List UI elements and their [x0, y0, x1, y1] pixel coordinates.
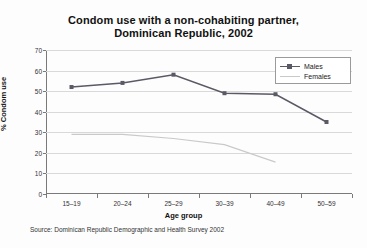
y-tick-label: 30: [35, 129, 42, 136]
legend-item-males: Males: [280, 61, 346, 71]
chart-title: Condom use with a non-cohabiting partner…: [0, 14, 367, 40]
y-axis-label: % Condom use: [0, 77, 8, 131]
x-tick-label: 20–24: [113, 200, 131, 207]
chart-title-line-2: Dominican Republic, 2002: [0, 27, 367, 40]
source-note: Source: Dominican Republic Demographic a…: [30, 226, 224, 233]
chart-page: Condom use with a non-cohabiting partner…: [0, 0, 367, 248]
legend-item-females: Females: [280, 71, 346, 81]
legend-label-males: Males: [304, 62, 323, 71]
x-tick-mark: [250, 194, 251, 198]
legend-swatch-males-icon: [280, 62, 300, 70]
series-line-females: [72, 134, 276, 162]
y-tick-label: 40: [35, 108, 42, 115]
y-tick-label: 70: [35, 47, 42, 54]
x-tick-label: 15–19: [62, 200, 80, 207]
x-tick-mark: [301, 194, 302, 198]
x-tick-label: 25–29: [164, 200, 182, 207]
y-tick-label: 20: [35, 149, 42, 156]
data-point-marker: [172, 73, 176, 77]
x-tick-label: 30–39: [215, 200, 233, 207]
x-tick-label: 50–59: [317, 200, 335, 207]
y-tick-label: 60: [35, 67, 42, 74]
x-tick-label: 40–49: [266, 200, 284, 207]
x-tick-mark: [148, 194, 149, 198]
chart-legend: Males Females: [275, 57, 351, 84]
legend-swatch-females-icon: [280, 72, 300, 80]
x-axis-label: Age group: [0, 211, 367, 220]
x-tick-mark: [46, 194, 47, 198]
data-point-marker: [70, 85, 74, 89]
x-tick-mark: [199, 194, 200, 198]
legend-label-females: Females: [304, 72, 331, 81]
data-point-marker: [121, 81, 125, 85]
data-point-marker: [274, 92, 278, 96]
x-tick-mark: [97, 194, 98, 198]
data-point-marker: [325, 120, 329, 124]
y-tick-label: 10: [35, 170, 42, 177]
y-tick-label: 0: [38, 191, 42, 198]
data-point-marker: [223, 91, 227, 95]
x-tick-mark: [352, 194, 353, 198]
chart-title-line-1: Condom use with a non-cohabiting partner…: [0, 14, 367, 27]
y-tick-label: 50: [35, 88, 42, 95]
